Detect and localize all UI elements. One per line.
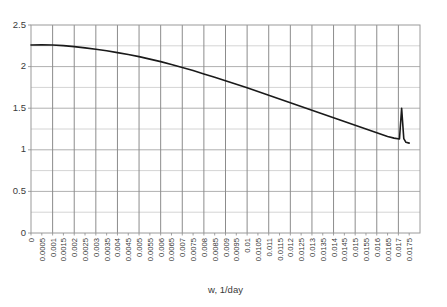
- chart-container: 00.511.522.5 00.00050.0010.00150.0020.00…: [0, 0, 447, 307]
- y-tick-label: 1: [21, 143, 26, 154]
- y-tick-label: 0.5: [13, 185, 26, 196]
- x-tick-label: 0.0025: [81, 238, 90, 261]
- x-tick-label: 0.0125: [297, 238, 306, 261]
- x-tick-label: 0.0045: [124, 238, 133, 261]
- x-tick-label: 0.004: [113, 238, 122, 257]
- x-axis-title: w, 1/day: [207, 284, 243, 295]
- x-tick-label: 0.0085: [211, 238, 220, 261]
- x-tick-label: 0.0175: [405, 238, 414, 261]
- x-tick-label: 0.011: [265, 238, 274, 256]
- x-tick-label: 0.0075: [189, 238, 198, 261]
- x-tick-label: 0.0165: [384, 238, 393, 261]
- x-tick-label: 0.012: [286, 238, 295, 257]
- x-tick-label: 0.0065: [167, 238, 176, 261]
- x-tick-label: 0.0135: [319, 238, 328, 261]
- x-tick-label: 0.0115: [276, 238, 285, 261]
- x-tick-label: 0.014: [330, 238, 339, 257]
- x-tick-label: 0.016: [373, 238, 382, 257]
- x-tick-label: 0.0005: [38, 238, 47, 261]
- x-tick-label: 0.0095: [232, 238, 241, 261]
- y-tick-label: 0: [21, 227, 26, 238]
- x-tick-label: 0.0145: [340, 238, 349, 261]
- y-tick-label: 2: [21, 60, 26, 71]
- x-tick-label: 0.0105: [254, 238, 263, 261]
- x-tick-label: 0.009: [222, 238, 231, 257]
- x-tick-label: 0.0155: [362, 238, 371, 261]
- x-tick-label: 0.006: [157, 238, 166, 257]
- x-axis-tick-labels: 00.00050.0010.00150.0020.00250.0030.0035…: [27, 238, 414, 261]
- x-tick-label: 0.0015: [59, 238, 68, 261]
- x-tick-label: 0.017: [394, 238, 403, 257]
- x-tick-label: 0.013: [308, 238, 317, 257]
- x-tick-label: 0.0055: [146, 238, 155, 261]
- line-chart: 00.511.522.5 00.00050.0010.00150.0020.00…: [0, 0, 447, 307]
- x-tick-label: 0: [27, 238, 36, 242]
- x-tick-label: 0.005: [135, 238, 144, 257]
- x-tick-label: 0.001: [49, 238, 58, 257]
- x-tick-label: 0.015: [351, 238, 360, 257]
- y-tick-label: 2.5: [13, 19, 26, 30]
- x-tick-label: 0.0035: [103, 238, 112, 261]
- x-tick-label: 0.007: [178, 238, 187, 257]
- y-tick-label: 1.5: [13, 102, 26, 113]
- x-tick-label: 0.008: [200, 238, 209, 257]
- x-tick-label: 0.003: [92, 238, 101, 257]
- x-tick-label: 0.002: [70, 238, 79, 257]
- x-tick-label: 0.01: [243, 238, 252, 253]
